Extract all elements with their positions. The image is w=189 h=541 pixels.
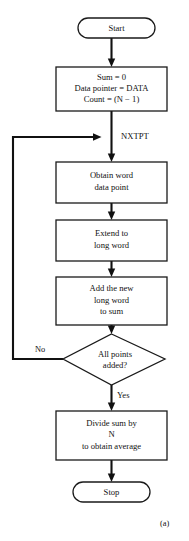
obtain-label-line-2: data point bbox=[94, 182, 129, 192]
node-add: Add the new long word to sum bbox=[56, 277, 167, 325]
start-label: Start bbox=[108, 23, 125, 33]
obtain-label-line-1: Obtain word bbox=[90, 170, 134, 180]
init-label-line-2: Data pointer = DATA bbox=[74, 83, 149, 93]
node-init: Sum = 0 Data pointer = DATA Count = (N −… bbox=[56, 67, 167, 111]
node-decision: All points added? bbox=[63, 334, 165, 385]
figure-caption: (a) bbox=[160, 519, 170, 528]
divide-label-line-3: to obtain average bbox=[82, 441, 141, 451]
connector-add-to-decision bbox=[108, 325, 115, 334]
decision-label-line-2: added? bbox=[103, 360, 128, 370]
add-label-line-1: Add the new bbox=[90, 283, 135, 293]
connector-start-to-init bbox=[108, 38, 115, 67]
decision-label-line-1: All points bbox=[98, 349, 133, 359]
init-label-line-1: Sum = 0 bbox=[97, 72, 126, 82]
flowchart-canvas: Start Sum = 0 Data pointer = DATA Count … bbox=[0, 0, 189, 541]
add-label-line-2: long word bbox=[94, 295, 130, 305]
extend-label-line-1: Extend to bbox=[95, 228, 128, 238]
connector-obtain-to-extend bbox=[108, 203, 115, 220]
add-label-line-3: to sum bbox=[100, 306, 123, 316]
flowchart-figure: Start Sum = 0 Data pointer = DATA Count … bbox=[0, 0, 189, 541]
connector-nxtpt-to-obtain bbox=[108, 137, 115, 162]
node-stop: Stop bbox=[73, 482, 150, 502]
decision-yes-label: Yes bbox=[117, 390, 130, 400]
stop-label: Stop bbox=[104, 487, 120, 497]
connector-divide-to-stop bbox=[108, 460, 115, 482]
node-extend: Extend to long word bbox=[56, 220, 167, 261]
decision-no-label: No bbox=[35, 345, 45, 354]
init-label-line-3: Count = (N − 1) bbox=[84, 94, 140, 104]
connector-extend-to-add bbox=[108, 261, 115, 277]
node-obtain: Obtain word data point bbox=[56, 162, 167, 203]
extend-label-line-2: long word bbox=[94, 240, 130, 250]
divide-label-line-2: N bbox=[108, 429, 115, 439]
node-start: Start bbox=[78, 18, 155, 38]
nxtpt-loop-label: NXTPT bbox=[121, 131, 149, 141]
connector-decision-yes-to-divide bbox=[108, 385, 115, 411]
node-divide: Divide sum by N to obtain average bbox=[56, 411, 167, 460]
divide-label-line-1: Divide sum by bbox=[86, 418, 137, 428]
